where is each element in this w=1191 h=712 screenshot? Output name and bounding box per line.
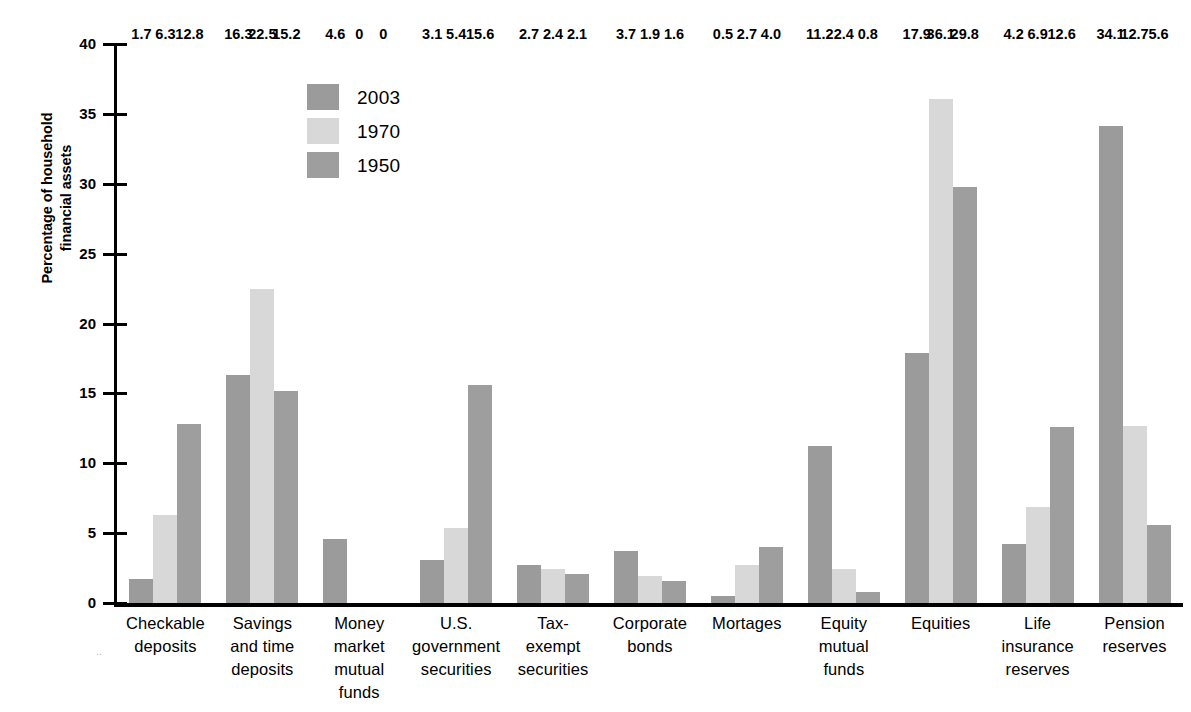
bar-group: 17.936.129.8 — [905, 44, 977, 603]
bar-value-label: 15.6 — [466, 27, 494, 41]
bar: 1.7 — [129, 44, 153, 603]
bar: 1.6 — [662, 44, 686, 603]
bar-value-label: 0.5 — [713, 27, 733, 41]
bar-value-label: 2.7 — [519, 27, 539, 41]
bar-group: 16.322.515.2 — [226, 44, 298, 603]
y-tick-label: 10 — [56, 455, 96, 470]
bar-rect — [735, 565, 759, 603]
bar-value-label: 1.9 — [640, 27, 660, 41]
bar-value-label: 0 — [355, 27, 363, 41]
bar-value-label: 12.7 — [1120, 27, 1148, 41]
bar-rect — [662, 581, 686, 603]
y-tick-label: 30 — [56, 176, 96, 191]
bar: 12.8 — [177, 44, 201, 603]
bar: 2.7 — [735, 44, 759, 603]
bar-value-label: 12.6 — [1048, 27, 1076, 41]
bar: 2.7 — [517, 44, 541, 603]
bar: 2.4 — [541, 44, 565, 603]
y-tick-label: 0 — [56, 595, 96, 610]
bar-group: 0.52.74.0 — [711, 44, 783, 603]
bar-rect — [517, 565, 541, 603]
bar-group: 4.26.912.6 — [1002, 44, 1074, 603]
bar-group: 3.15.415.6 — [420, 44, 492, 603]
bar: 34.1 — [1099, 44, 1123, 603]
bar-rect — [808, 446, 832, 603]
bar-rect — [1147, 525, 1171, 603]
bar: 12.6 — [1050, 44, 1074, 603]
bar-value-label: 6.3 — [155, 27, 175, 41]
bar-rect — [953, 187, 977, 603]
y-tick-label: 20 — [56, 316, 96, 331]
bar-rect — [323, 539, 347, 603]
bar-rect — [638, 576, 662, 603]
bar-value-label: 4.0 — [761, 27, 781, 41]
bar: 6.3 — [153, 44, 177, 603]
bar-value-label: 1.6 — [664, 27, 684, 41]
bar-value-label: 1.7 — [131, 27, 151, 41]
bar-rect — [832, 569, 856, 603]
bar-rect — [1026, 507, 1050, 603]
bar: 5.6 — [1147, 44, 1171, 603]
bar-rect — [274, 391, 298, 603]
bar-value-label: 4.2 — [1004, 27, 1024, 41]
bar-value-label: 2.4 — [834, 27, 854, 41]
bar: 12.7 — [1123, 44, 1147, 603]
bar-group: 34.112.75.6 — [1099, 44, 1171, 603]
bar: 16.3 — [226, 44, 250, 603]
bar-rect — [177, 424, 201, 603]
bar-rect — [226, 375, 250, 603]
bar: 6.9 — [1026, 44, 1050, 603]
bar-group: 11.22.40.8 — [808, 44, 880, 603]
bar-rect — [1002, 544, 1026, 603]
y-tick-label: 40 — [56, 36, 96, 51]
bar-rect — [1099, 126, 1123, 603]
bar-value-label: 2.1 — [567, 27, 587, 41]
bar: 15.2 — [274, 44, 298, 603]
scan-artifact: .. — [96, 645, 102, 657]
bar-value-label: 11.2 — [806, 27, 833, 41]
bar: 29.8 — [953, 44, 977, 603]
bar: 17.9 — [905, 44, 929, 603]
bar-rect — [129, 579, 153, 603]
bar-value-label: 15.2 — [272, 27, 300, 41]
bar: 0 — [347, 44, 371, 603]
bar-rect — [856, 592, 880, 603]
bar-rect — [1050, 427, 1074, 603]
bar: 4.6 — [323, 44, 347, 603]
bar-group: 1.76.312.8 — [129, 44, 201, 603]
bar-rect — [250, 289, 274, 603]
bar: 4.2 — [1002, 44, 1026, 603]
bar-value-label: 0.8 — [858, 27, 878, 41]
bar-group: 3.71.91.6 — [614, 44, 686, 603]
bar: 11.2 — [808, 44, 832, 603]
bar: 22.5 — [250, 44, 274, 603]
bar-value-label: 6.9 — [1028, 27, 1048, 41]
bar-group: 2.72.42.1 — [517, 44, 589, 603]
bar-rect — [468, 385, 492, 603]
x-axis-line — [114, 603, 1183, 607]
bar-value-label: 5.4 — [446, 27, 466, 41]
bar: 0.5 — [711, 44, 735, 603]
bar-value-label: 5.6 — [1148, 27, 1168, 41]
bar-rect — [1123, 426, 1147, 603]
y-tick-label: 25 — [56, 246, 96, 261]
bar-value-label: 0 — [379, 27, 387, 41]
bar-rect — [153, 515, 177, 603]
bar-value-label: 4.6 — [325, 27, 345, 41]
bar-rect — [905, 353, 929, 603]
bar-rect — [444, 528, 468, 603]
bar-value-label: 3.7 — [616, 27, 636, 41]
bar: 0.8 — [856, 44, 880, 603]
bar: 36.1 — [929, 44, 953, 603]
bar-chart: Percentage of household financial assets… — [0, 0, 1191, 712]
bar-rect — [420, 560, 444, 603]
bar: 1.9 — [638, 44, 662, 603]
bar: 4.0 — [759, 44, 783, 603]
bar: 5.4 — [444, 44, 468, 603]
bar-group: 4.600 — [323, 44, 395, 603]
bar-value-label: 29.8 — [951, 27, 979, 41]
bar: 15.6 — [468, 44, 492, 603]
bar-rect — [711, 596, 735, 603]
x-axis-labels: Checkable depositsSavings and time depos… — [117, 612, 1183, 708]
y-tick-label: 35 — [56, 106, 96, 121]
